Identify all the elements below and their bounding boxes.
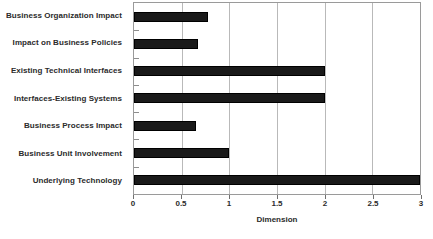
y-axis-tick bbox=[134, 167, 139, 168]
bar-row bbox=[134, 139, 420, 166]
bar bbox=[134, 93, 325, 103]
y-axis-tick bbox=[134, 30, 139, 31]
x-axis-tick-labels: 00.511.522.53 bbox=[133, 200, 421, 212]
y-axis-tick bbox=[134, 85, 139, 86]
category-label: Business Process Impact bbox=[0, 112, 128, 140]
category-label: Interfaces-Existing Systems bbox=[0, 85, 128, 113]
bar-row bbox=[134, 58, 420, 85]
category-label: Underlying Technology bbox=[0, 167, 128, 195]
bar bbox=[134, 148, 229, 158]
x-axis-title: Dimension bbox=[133, 216, 421, 224]
bar bbox=[134, 66, 325, 76]
plot-area bbox=[133, 2, 421, 195]
bar bbox=[134, 39, 198, 49]
bar-chart: Business Organization Impact Impact on B… bbox=[0, 0, 433, 239]
bar-row bbox=[134, 167, 420, 194]
bar bbox=[134, 121, 196, 131]
y-axis-tick bbox=[134, 58, 139, 59]
x-axis-tick-label: 2.5 bbox=[367, 200, 378, 208]
category-axis-labels: Business Organization Impact Impact on B… bbox=[0, 2, 128, 195]
bar-series bbox=[134, 3, 420, 194]
bar bbox=[134, 175, 420, 185]
x-axis-tick-label: 3 bbox=[419, 200, 423, 208]
category-label: Impact on Business Policies bbox=[0, 30, 128, 58]
x-axis-tick-label: 2 bbox=[323, 200, 327, 208]
bar-row bbox=[134, 3, 420, 30]
x-axis-tick-label: 0.5 bbox=[175, 200, 186, 208]
y-axis-tick bbox=[134, 139, 139, 140]
bar-row bbox=[134, 30, 420, 57]
x-axis-tick-label: 0 bbox=[131, 200, 135, 208]
x-axis-tick-label: 1.5 bbox=[271, 200, 282, 208]
bar-row bbox=[134, 112, 420, 139]
category-label: Business Organization Impact bbox=[0, 2, 128, 30]
x-axis-tick-label: 1 bbox=[227, 200, 231, 208]
bar bbox=[134, 12, 208, 22]
category-label: Business Unit Involvement bbox=[0, 140, 128, 168]
bar-row bbox=[134, 85, 420, 112]
y-axis-tick bbox=[134, 112, 139, 113]
category-label: Existing Technical Interfaces bbox=[0, 57, 128, 85]
